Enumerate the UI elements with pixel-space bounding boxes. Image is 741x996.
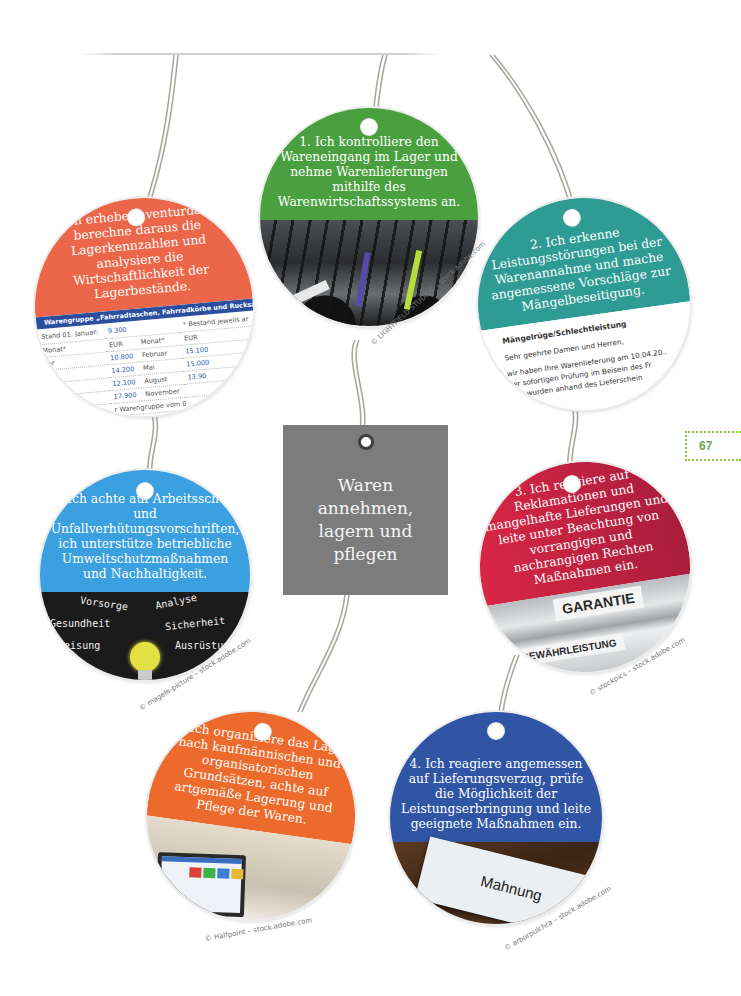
tag-6-text: 6. Ich achte auf Arbeitsschutz und Unfal… xyxy=(50,492,240,582)
center-title-card: Waren annehmen, lagern und pflegen xyxy=(283,425,448,595)
tag-hole xyxy=(136,482,154,500)
inventory-table: Warengruppe „Fahrradtaschen, Fahrradkörb… xyxy=(36,298,263,425)
lightbulb-icon xyxy=(130,642,160,672)
tag-1-goods-receipt: 1. Ich kontrolliere den Wareneingang im … xyxy=(260,108,478,326)
tag-6-safety: 6. Ich achte auf Arbeitsschutz und Unfal… xyxy=(40,470,250,680)
laptop-screen xyxy=(156,852,246,917)
inventory-data-table: Stand 01. Januar: 9.300 * Bestand jeweil… xyxy=(37,312,262,422)
tag-4-text: 4. Ich reagiere angemessen auf Lieferung… xyxy=(400,757,592,832)
tag-2-text: 2. Ich erkenne Leistungsstörungen bei de… xyxy=(479,218,680,319)
tag-7-inventory: 7. Ich erhebe Inventurdaten, berechne da… xyxy=(26,189,262,425)
tag-hole xyxy=(487,722,505,740)
chalkboard-photo: Vorsorge Analyse Gesundheit Sicherheit t… xyxy=(40,592,250,680)
tag-5-warehouse-organization: 5. Ich organisiere das Lager nach kaufmä… xyxy=(134,699,369,934)
tag-2-performance-disruptions: 2. Ich erkenne Leistungsstörungen bei de… xyxy=(464,184,703,423)
envelope-label: Mahnung xyxy=(479,872,544,904)
tag-4-delivery-delay: 4. Ich reagiere angemessen auf Lieferung… xyxy=(390,712,602,924)
binder-label-guarantee: GEWÄHRLEISTUNG xyxy=(512,633,625,667)
center-title: Waren annehmen, lagern und pflegen xyxy=(318,474,414,566)
tag-1-text: 1. Ich kontrolliere den Wareneingang im … xyxy=(270,135,468,210)
eyelet-icon xyxy=(358,434,374,450)
tag-hole xyxy=(360,118,378,136)
page-number: 67 xyxy=(685,431,741,461)
